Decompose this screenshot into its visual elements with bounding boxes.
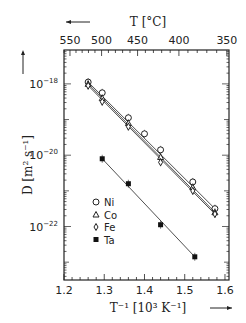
legend-label-ta: Ta — [103, 235, 115, 246]
marker-ta — [126, 181, 131, 186]
legend-label-ni: Ni — [104, 197, 114, 208]
x-tick-label: 1.3 — [95, 284, 113, 297]
marker-co — [93, 212, 99, 218]
top-axis-label: T [°C] — [130, 15, 166, 29]
top-tick-label: 500 — [91, 34, 112, 47]
x-axis-label: T⁻¹ [10³ K⁻¹] — [110, 301, 186, 315]
marker-fe — [94, 224, 98, 231]
marker-ni — [93, 199, 99, 205]
top-tick-label: 350 — [216, 34, 237, 47]
marker-ta — [158, 222, 163, 227]
marker-ta — [100, 156, 105, 161]
top-tick-label: 550 — [59, 34, 80, 47]
marker-ni — [141, 131, 147, 137]
y-axis-label: D [m² s⁻¹] — [21, 135, 35, 195]
x-tick-label: 1.5 — [176, 284, 194, 297]
marker-ta — [192, 254, 197, 259]
x-tick-label: 1.6 — [216, 284, 234, 297]
x-arrowhead — [227, 306, 232, 310]
arrhenius-chart: 1.21.31.41.51.655050045040035010−1810−20… — [0, 0, 246, 323]
fit-line-co — [88, 84, 215, 212]
top-arrowhead — [66, 20, 71, 24]
legend-label-co: Co — [104, 210, 117, 221]
x-tick-label: 1.2 — [55, 284, 73, 297]
y-arrowhead — [21, 50, 25, 55]
y-tick-label: 10−18 — [29, 77, 58, 91]
marker-ni — [158, 147, 164, 153]
legend-label-fe: Fe — [104, 222, 115, 233]
fit-line-ta — [102, 159, 195, 257]
x-tick-label: 1.4 — [136, 284, 154, 297]
marker-ta — [94, 237, 99, 242]
fit-line-fe — [88, 86, 215, 214]
y-tick-label: 10−22 — [29, 220, 58, 234]
top-tick-label: 450 — [127, 34, 148, 47]
top-tick-label: 400 — [168, 34, 189, 47]
